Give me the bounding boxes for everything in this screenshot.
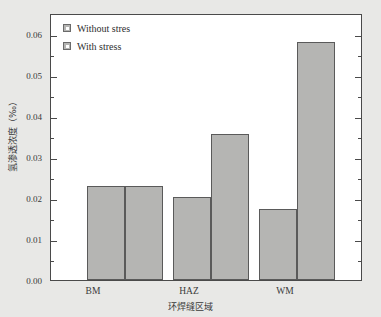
- y-major-tick: [51, 241, 57, 242]
- y-major-tick-right: [355, 77, 361, 78]
- y-major-tick: [51, 118, 57, 119]
- bar-bm-with-stress: [125, 186, 163, 280]
- y-minor-tick-right: [358, 138, 361, 139]
- plot-area: Without stres With stress: [50, 14, 362, 281]
- y-major-tick: [51, 159, 57, 160]
- y-tick-label-0.02: 0.02: [8, 195, 42, 204]
- y-major-tick: [51, 77, 57, 78]
- x-tick-label-wm: WM: [256, 286, 314, 296]
- x-axis-title: 环焊缝区域: [0, 300, 381, 313]
- bar-bm-without-stress: [87, 186, 125, 280]
- y-minor-tick: [51, 261, 54, 262]
- chart-legend: Without stres With stress: [63, 21, 130, 57]
- y-minor-tick-right: [358, 220, 361, 221]
- y-major-tick-right: [355, 241, 361, 242]
- chart-figure: 0.06 0.05 0.04 0.03 0.02 0.01 0.00 氢渗透浓度…: [0, 0, 381, 317]
- y-major-tick-right: [355, 200, 361, 201]
- bar-wm-with-stress: [297, 42, 335, 280]
- bar-haz-with-stress: [211, 134, 249, 280]
- y-tick-label-0.01: 0.01: [8, 236, 42, 245]
- y-major-tick: [51, 36, 57, 37]
- legend-entry-with-stress: With stress: [63, 39, 130, 53]
- y-minor-tick-right: [358, 56, 361, 57]
- y-minor-tick: [51, 220, 54, 221]
- x-tick-label-haz: HAZ: [160, 286, 218, 296]
- bar-wm-without-stress: [259, 209, 297, 280]
- y-minor-tick: [51, 56, 54, 57]
- y-major-tick-right: [355, 118, 361, 119]
- y-major-tick-right: [355, 159, 361, 160]
- legend-label-with-stress: With stress: [77, 41, 121, 52]
- legend-swatch-icon: [63, 24, 71, 32]
- y-major-tick-right: [355, 280, 361, 281]
- y-minor-tick-right: [358, 97, 361, 98]
- y-minor-tick: [51, 97, 54, 98]
- y-minor-tick-right: [358, 261, 361, 262]
- y-minor-tick-right: [358, 179, 361, 180]
- legend-swatch-icon: [63, 42, 71, 50]
- bar-haz-without-stress: [173, 197, 211, 280]
- legend-entry-without-stress: Without stres: [63, 21, 130, 35]
- y-tick-label-0.00: 0.00: [8, 277, 42, 286]
- y-minor-tick: [51, 179, 54, 180]
- legend-label-without-stress: Without stres: [77, 23, 130, 34]
- x-tick-label-bm: BM: [64, 286, 122, 296]
- y-major-tick-right: [355, 36, 361, 37]
- y-axis-title: 氢渗透浓度（‰）: [6, 75, 19, 195]
- y-tick-label-0.06: 0.06: [8, 31, 42, 40]
- y-major-tick: [51, 280, 57, 281]
- y-minor-tick: [51, 138, 54, 139]
- y-major-tick: [51, 200, 57, 201]
